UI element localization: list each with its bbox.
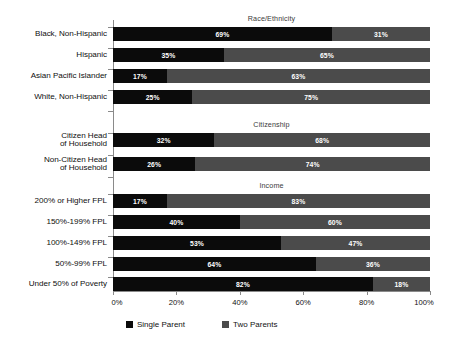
segment-single-parent: 69% xyxy=(113,27,332,41)
y-axis-tick xyxy=(108,111,113,112)
bar-row-under-50-of-poverty: Under 50% of Poverty 82% 18% xyxy=(0,277,451,291)
y-axis-tick xyxy=(108,277,113,278)
bar-track: 26% 74% xyxy=(113,157,430,171)
section-title-citizenship: Citizenship xyxy=(113,120,430,129)
y-axis-tick xyxy=(108,133,113,134)
segment-two-parents: 36% xyxy=(316,257,430,271)
segment-two-parents: 83% xyxy=(167,194,430,208)
segment-single-parent: 17% xyxy=(113,69,167,83)
y-axis-tick xyxy=(108,257,113,258)
y-axis-tick xyxy=(108,215,113,216)
x-axis-tick xyxy=(240,291,241,295)
x-axis-tick xyxy=(430,291,431,295)
bar-track: 69% 31% xyxy=(113,27,430,41)
row-label: 200% or Higher FPL xyxy=(0,197,107,205)
segment-single-parent: 64% xyxy=(113,257,316,271)
bar-row-black-non-hispanic: Black, Non-Hispanic 69% 31% xyxy=(0,27,451,41)
y-axis-tick xyxy=(108,90,113,91)
bar-track: 64% 36% xyxy=(113,257,430,271)
bar-row-citizen-head-of-household: Citizen Head of Household 32% 68% xyxy=(0,133,451,147)
row-label: 100%-149% FPL xyxy=(0,239,107,247)
row-label: 150%-199% FPL xyxy=(0,218,107,226)
x-axis-tick xyxy=(113,291,114,295)
section-title-income: Income xyxy=(113,181,430,190)
bar-row-150-199-fpl: 150%-199% FPL 40% 60% xyxy=(0,215,451,229)
segment-single-parent: 25% xyxy=(113,90,192,104)
segment-two-parents: 68% xyxy=(214,133,430,147)
y-axis-tick xyxy=(108,27,113,28)
bar-row-white-non-hispanic: White, Non-Hispanic 25% 75% xyxy=(0,90,451,104)
segment-two-parents: 47% xyxy=(281,236,430,250)
bar-track: 40% 60% xyxy=(113,215,430,229)
row-label-line2: of Household xyxy=(0,140,107,148)
segment-single-parent: 82% xyxy=(113,277,373,291)
segment-two-parents: 65% xyxy=(224,48,430,62)
legend-item-single-parent[interactable]: Single Parent xyxy=(126,320,185,329)
segment-two-parents: 60% xyxy=(240,215,430,229)
x-axis-tick xyxy=(176,291,177,295)
segment-single-parent: 17% xyxy=(113,194,167,208)
row-label: Asian Pacific Islander xyxy=(0,72,107,80)
y-axis-tick xyxy=(108,48,113,49)
chart-legend: Single Parent Two Parents xyxy=(126,320,278,329)
segment-two-parents: 18% xyxy=(373,277,430,291)
row-label: 50%-99% FPL xyxy=(0,260,107,268)
bar-track: 82% 18% xyxy=(113,277,430,291)
y-axis-tick xyxy=(108,194,113,195)
bar-track: 35% 65% xyxy=(113,48,430,62)
bar-row-200-or-higher-fpl: 200% or Higher FPL 17% 83% xyxy=(0,194,451,208)
segment-single-parent: 26% xyxy=(113,157,195,171)
x-axis-label-100: 100% xyxy=(414,298,433,307)
legend-swatch-icon xyxy=(126,321,133,328)
x-axis-label-80: 80% xyxy=(359,298,374,307)
segment-two-parents: 75% xyxy=(192,90,430,104)
stacked-bar-chart: Race/Ethnicity Black, Non-Hispanic 69% 3… xyxy=(0,0,451,348)
x-axis-tick xyxy=(303,291,304,295)
segment-single-parent: 35% xyxy=(113,48,224,62)
row-label-line2: of Household xyxy=(0,164,107,172)
bar-track: 53% 47% xyxy=(113,236,430,250)
y-axis-tick xyxy=(108,177,113,178)
segment-single-parent: 40% xyxy=(113,215,240,229)
segment-single-parent: 32% xyxy=(113,133,214,147)
bar-track: 17% 83% xyxy=(113,194,430,208)
segment-two-parents: 31% xyxy=(332,27,430,41)
x-axis-label-20: 20% xyxy=(169,298,184,307)
row-label: Citizen Head of Household xyxy=(0,132,107,149)
x-axis-line xyxy=(113,291,431,292)
legend-label: Single Parent xyxy=(137,320,185,329)
bar-track: 17% 63% xyxy=(113,69,430,83)
x-axis-label-0: 0% xyxy=(112,298,123,307)
row-label: Black, Non-Hispanic xyxy=(0,30,107,38)
bar-row-100-149-fpl: 100%-149% FPL 53% 47% xyxy=(0,236,451,250)
x-axis-tick xyxy=(367,291,368,295)
segment-single-parent: 53% xyxy=(113,236,281,250)
row-label: Non-Citizen Head of Household xyxy=(0,156,107,173)
segment-two-parents: 74% xyxy=(195,157,430,171)
x-axis-label-40: 40% xyxy=(232,298,247,307)
bar-row-50-99-fpl: 50%-99% FPL 64% 36% xyxy=(0,257,451,271)
legend-label: Two Parents xyxy=(233,320,277,329)
segment-two-parents: 63% xyxy=(167,69,430,83)
y-axis-tick xyxy=(108,236,113,237)
row-label: White, Non-Hispanic xyxy=(0,93,107,101)
row-label: Under 50% of Poverty xyxy=(0,280,107,288)
bar-row-hispanic: Hispanic 35% 65% xyxy=(0,48,451,62)
y-axis-tick xyxy=(108,155,113,156)
y-axis-tick xyxy=(108,69,113,70)
x-axis-label-60: 60% xyxy=(296,298,311,307)
legend-item-two-parents[interactable]: Two Parents xyxy=(222,320,277,329)
bar-track: 32% 68% xyxy=(113,133,430,147)
bar-track: 25% 75% xyxy=(113,90,430,104)
bar-row-asian-pacific-islander: Asian Pacific Islander 17% 63% xyxy=(0,69,451,83)
row-label: Hispanic xyxy=(0,51,107,59)
section-title-race: Race/Ethnicity xyxy=(113,14,430,23)
legend-swatch-icon xyxy=(222,321,229,328)
bar-row-non-citizen-head-of-household: Non-Citizen Head of Household 26% 74% xyxy=(0,157,451,171)
